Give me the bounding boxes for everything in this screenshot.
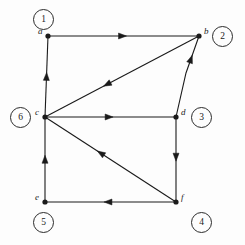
node-label-b: b bbox=[204, 27, 209, 36]
edge-b-to-c-arrowhead-icon bbox=[104, 80, 112, 86]
node-index-badge-e: 5 bbox=[33, 212, 54, 233]
edge-a-to-b-arrowhead-icon bbox=[119, 33, 127, 39]
node-label-d: d bbox=[181, 108, 186, 117]
edge-d-to-b bbox=[176, 36, 199, 117]
node-dot-d[interactable] bbox=[173, 114, 178, 119]
edge-e-to-c-arrowhead-icon bbox=[42, 155, 48, 163]
node-label-e: e bbox=[35, 193, 39, 202]
edge-d-to-b-arrowhead-icon bbox=[187, 55, 193, 64]
edge-f-to-c-arrowhead-icon bbox=[97, 151, 105, 158]
edge-b-to-c bbox=[45, 36, 199, 117]
node-dot-a[interactable] bbox=[45, 33, 50, 38]
node-dot-c[interactable] bbox=[42, 114, 47, 119]
node-index-badge-d: 3 bbox=[191, 107, 212, 128]
node-dot-layer bbox=[42, 33, 201, 204]
node-dot-f[interactable] bbox=[173, 199, 178, 204]
node-index-badge-f: 4 bbox=[191, 212, 212, 233]
node-index-badge-a: 1 bbox=[33, 9, 54, 30]
node-dot-e[interactable] bbox=[42, 199, 47, 204]
edge-c-to-a-arrowhead-icon bbox=[43, 72, 49, 80]
node-label-c: c bbox=[35, 108, 39, 117]
node-index-badge-b: 2 bbox=[212, 26, 233, 47]
edge-f-to-c bbox=[45, 117, 176, 202]
node-index-badge-c: 6 bbox=[10, 107, 31, 128]
node-dot-b[interactable] bbox=[196, 33, 201, 38]
edge-d-to-f-arrowhead-icon bbox=[173, 153, 179, 161]
directed-graph-figure: abcdef 126354 bbox=[0, 0, 245, 245]
arrowhead-layer bbox=[42, 33, 192, 205]
edge-c-to-d-arrowhead-icon bbox=[105, 114, 113, 120]
edge-f-to-e-arrowhead-icon bbox=[104, 199, 112, 205]
node-label-f: f bbox=[181, 193, 184, 202]
